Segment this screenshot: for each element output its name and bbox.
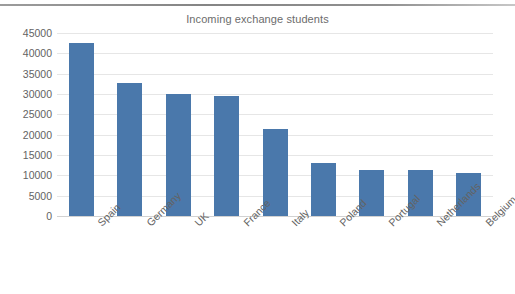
y-tick-label-25000: 25000 bbox=[0, 108, 52, 120]
x-tick-label-france: France bbox=[241, 220, 249, 228]
x-axis-tick-labels: SpainGermanyUKFranceItalyPolandPortugalN… bbox=[57, 216, 493, 294]
x-tick-label-uk: UK bbox=[192, 220, 200, 228]
plot-area bbox=[57, 33, 493, 216]
x-tick-label-portugal: Portugal bbox=[386, 220, 394, 228]
y-tick-label-35000: 35000 bbox=[0, 68, 52, 80]
image-top-border bbox=[0, 4, 515, 6]
x-tick-label-belgium: Belgium bbox=[483, 220, 491, 228]
bar-germany[interactable] bbox=[117, 83, 142, 216]
x-tick-label-italy: Italy bbox=[289, 220, 297, 228]
chart-title: Incoming exchange students bbox=[0, 13, 515, 25]
y-tick-label-15000: 15000 bbox=[0, 149, 52, 161]
x-tick-label-netherlands: Netherlands bbox=[434, 220, 442, 228]
y-tick-label-45000: 45000 bbox=[0, 27, 52, 39]
y-axis-tick-labels: 0500010000150002000025000300003500040000… bbox=[0, 33, 52, 216]
bars-group bbox=[57, 33, 493, 216]
y-tick-label-0: 0 bbox=[0, 210, 52, 222]
x-tick-label-germany: Germany bbox=[144, 220, 152, 228]
bar-chart-figure: Incoming exchange students 0500010000150… bbox=[0, 0, 515, 294]
bar-spain[interactable] bbox=[69, 43, 94, 216]
y-tick-label-30000: 30000 bbox=[0, 88, 52, 100]
y-tick-label-5000: 5000 bbox=[0, 190, 52, 202]
y-tick-label-40000: 40000 bbox=[0, 47, 52, 59]
bar-poland[interactable] bbox=[311, 163, 336, 216]
y-tick-label-10000: 10000 bbox=[0, 169, 52, 181]
bar-france[interactable] bbox=[214, 96, 239, 216]
x-tick-label-spain: Spain bbox=[95, 220, 103, 228]
y-tick-label-20000: 20000 bbox=[0, 129, 52, 141]
x-tick-label-poland: Poland bbox=[337, 220, 345, 228]
